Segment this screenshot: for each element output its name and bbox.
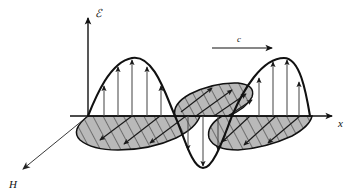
- h-field-lobe-2: [175, 83, 253, 116]
- em-wave-figure: ℰ x H c: [0, 0, 357, 193]
- velocity-label: c: [237, 34, 241, 44]
- h-field-lobe-3: [209, 116, 312, 150]
- velocity-arrow-group: c: [212, 34, 272, 48]
- magnetic-field-axis-line: [23, 116, 88, 169]
- em-wave-canvas: ℰ x H c: [0, 0, 357, 193]
- magnetic-field-axis-label: H: [8, 178, 18, 190]
- axis-group: [23, 18, 332, 169]
- h-lobe-3-shape: [209, 116, 312, 150]
- h-lobe-2-shape: [175, 83, 253, 116]
- electric-field-axis-label: ℰ: [95, 7, 103, 19]
- propagation-axis-label: x: [337, 117, 343, 129]
